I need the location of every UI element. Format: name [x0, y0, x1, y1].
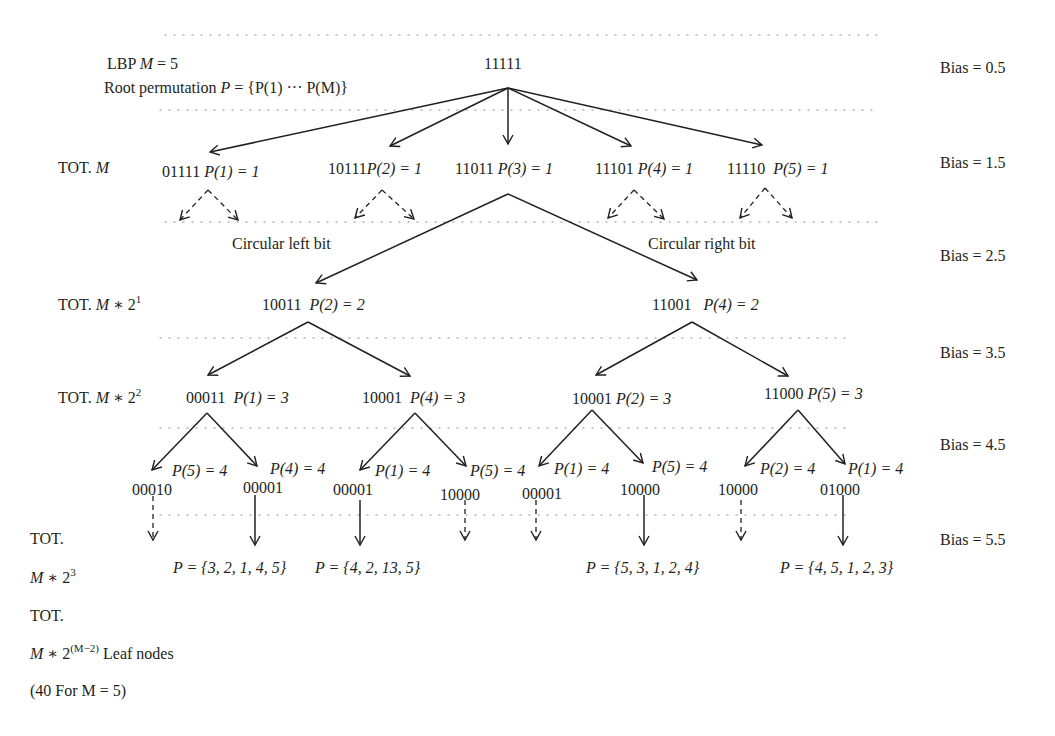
level1-node: 11101 P(4) = 1 — [595, 161, 693, 177]
level4-code: 01000 — [820, 482, 860, 498]
leaf-result: P = {4, 5, 1, 2, 3} — [780, 560, 893, 576]
level1-node: 11110 P(5) = 1 — [727, 161, 828, 177]
level3-node: 10001 P(2) = 3 — [572, 391, 671, 407]
level4-perm: P(1) = 4 — [848, 461, 903, 477]
level4-code: 10000 — [718, 482, 758, 498]
level4-perm: P(1) = 4 — [554, 461, 609, 477]
level4-perm: P(1) = 4 — [375, 463, 430, 479]
level4-perm: P(5) = 4 — [470, 463, 525, 479]
leaf-result: P = {4, 2, 13, 5} — [315, 560, 420, 576]
level4-edges — [152, 410, 845, 470]
leaf-result: P = {5, 3, 1, 2, 4} — [586, 560, 699, 576]
bias-label: Bias = 1.5 — [940, 155, 1005, 171]
leaf-result: P = {3, 2, 1, 4, 5} — [173, 560, 286, 576]
level3-node: 10001 P(4) = 3 — [362, 390, 465, 406]
level4-perm: P(4) = 4 — [270, 461, 325, 477]
level4-code: 00001 — [243, 480, 283, 496]
level4-code: 00001 — [522, 486, 562, 502]
level3-node: 00011 P(1) = 3 — [186, 390, 289, 406]
root-node: 11111 — [484, 56, 522, 72]
circular-right-bit-label: Circular right bit — [648, 236, 756, 252]
level2-edges — [316, 194, 697, 283]
level5-label-expr: M ∗ 2(M−2) Leaf nodes — [30, 646, 174, 662]
level4-code: 10000 — [440, 487, 480, 503]
level4-perm: P(5) = 4 — [172, 463, 227, 479]
lbp-title: LBP M = 5 — [107, 56, 178, 72]
bias-label: Bias = 2.5 — [940, 248, 1005, 264]
bias-label: Bias = 0.5 — [940, 60, 1005, 76]
permutation-tree-diagram — [0, 0, 1055, 736]
level1-node: 10111P(2) = 1 — [328, 161, 422, 177]
level4-perm: P(5) = 4 — [652, 459, 707, 475]
level4-code: 00010 — [132, 482, 172, 498]
leaf-arrows-solid — [255, 495, 843, 545]
bias-label: Bias = 5.5 — [940, 532, 1005, 548]
leaf-count-note: (40 For M = 5) — [30, 683, 126, 699]
bias-label: Bias = 4.5 — [940, 437, 1005, 453]
level1-node: 11011 P(3) = 1 — [455, 161, 553, 177]
level3-edges — [208, 322, 788, 376]
level2-node: 10011 P(2) = 2 — [262, 297, 365, 313]
level3-label: TOT. M ∗ 22 — [58, 390, 141, 406]
level2-node: 11001 P(4) = 2 — [652, 297, 759, 313]
level3-node: 11000 P(5) = 3 — [764, 386, 863, 402]
level4-label-expr: M ∗ 23 — [30, 570, 76, 586]
level-separators — [160, 35, 880, 515]
level4-code: 10000 — [620, 482, 660, 498]
level5-label-tot: TOT. — [30, 608, 64, 624]
root-permutation-label: Root permutation P = {P(1) ··· P(M)} — [104, 80, 348, 96]
circular-left-bit-label: Circular left bit — [232, 236, 331, 252]
level1-node: 01111 P(1) = 1 — [162, 164, 259, 180]
level4-label-tot: TOT. — [30, 531, 64, 547]
bias-label: Bias = 3.5 — [940, 345, 1005, 361]
root-edges — [210, 88, 762, 152]
level1-label: TOT. M — [58, 160, 109, 176]
level2-label: TOT. M ∗ 21 — [58, 297, 141, 313]
level4-code: 00001 — [333, 482, 373, 498]
level4-perm: P(2) = 4 — [760, 461, 815, 477]
